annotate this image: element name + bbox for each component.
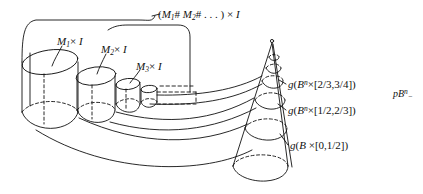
label-g-ball-two-thirds-three-quarters: g(Bn×[2/3,3/4]) [288, 79, 356, 90]
label-m3-times-i: M3× I [136, 61, 162, 74]
label-m1-base: M [162, 8, 171, 20]
label-close-paren: ) [221, 8, 225, 20]
m2-interval: I [123, 43, 127, 55]
label-times-operator: × [227, 8, 233, 20]
g-bottom-ball: B [299, 139, 306, 151]
m3-times: × [149, 60, 155, 72]
cylinder-m1 [21, 46, 80, 128]
outer-bracket [22, 16, 155, 62]
label-ellipsis: . . . [204, 8, 218, 20]
m1-base: M [57, 35, 66, 47]
g-top-interval: [2/3,3/4] [314, 78, 352, 90]
label-hash-2: # [196, 8, 202, 20]
label-hash-1: # [175, 8, 181, 20]
m1-interval: I [79, 35, 83, 47]
label-connected-sum: (M1# M2# . . . ) × I [158, 9, 240, 22]
label-m2-times-i: M2× I [101, 44, 127, 57]
m2-base: M [101, 43, 110, 55]
m3-base: M [136, 60, 145, 72]
label-m2-base: M [183, 8, 192, 20]
label-p-ball-n: pBn− [393, 88, 413, 101]
cylinder-m2 [75, 65, 117, 123]
label-interval-i: I [236, 8, 240, 20]
g-bottom-close-paren: ) [345, 139, 349, 151]
g-top-ball: B [297, 78, 304, 90]
m3-interval: I [158, 60, 162, 72]
pbn-trailing-mark: − [408, 92, 413, 101]
g-top-close-paren: ) [352, 78, 356, 90]
m1-times: × [70, 35, 76, 47]
g-mid-ball: B [297, 104, 304, 116]
g-bottom-interval: [0,1/2] [315, 139, 345, 151]
inner-bracket [108, 25, 190, 92]
m2-times: × [114, 43, 120, 55]
leader-lines [52, 14, 288, 145]
figure-canvas: (M1# M2# . . . ) × I M1× I M2× I M3× I g… [0, 0, 423, 194]
cone [233, 39, 292, 181]
diagram-vector-graphics [0, 0, 423, 194]
g-mid-close-paren: ) [352, 104, 356, 116]
mapping-bands [36, 76, 262, 167]
label-g-ball-half-two-thirds: g(Bn×[1/2,2/3]) [288, 105, 356, 116]
label-g-ball-zero-half: g(B ×[0,1/2]) [290, 140, 348, 151]
label-m1-times-i: M1× I [57, 36, 83, 49]
cylinder-m3 [115, 77, 140, 112]
g-mid-interval: [1/2,2/3] [314, 104, 352, 116]
